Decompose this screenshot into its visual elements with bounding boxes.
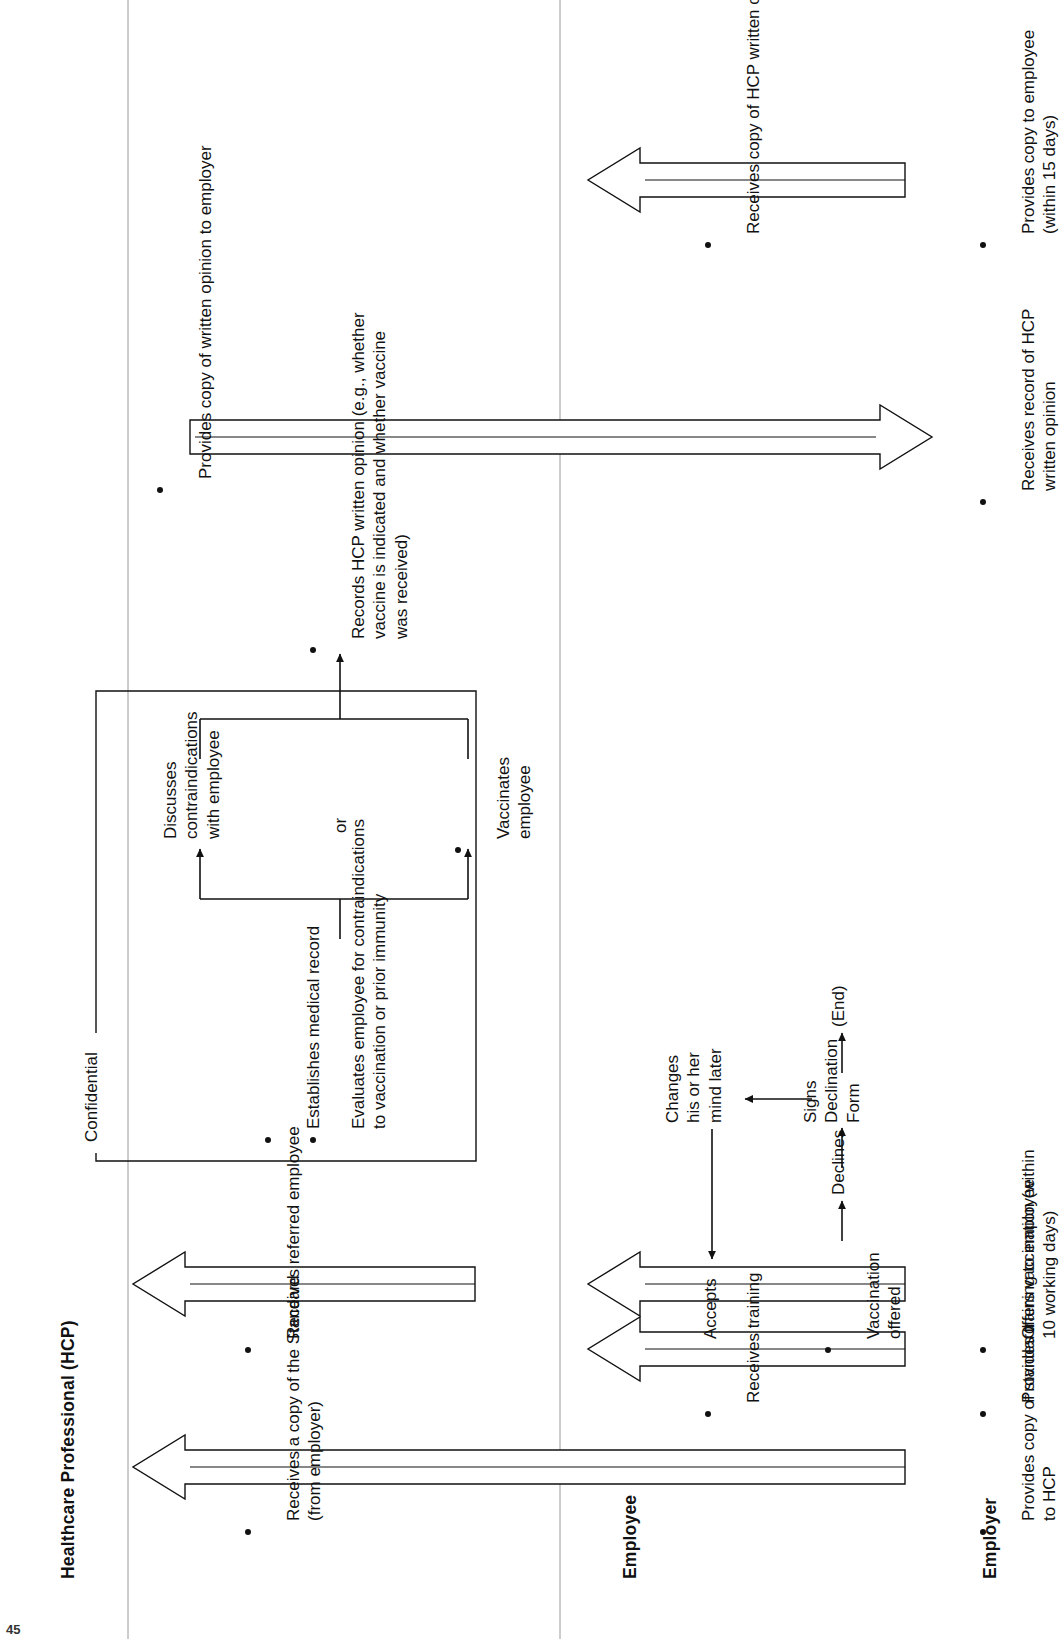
step-hcp-discusses-contraindications: Discusses contraindications with employe… <box>160 689 224 839</box>
bullet-dot <box>825 1347 831 1353</box>
page-number: 45 <box>6 1622 20 1637</box>
hollow-arrow-opinion-to-employer <box>190 405 932 469</box>
bullet-dot <box>157 487 163 493</box>
step-employee-signs-declination-form: Signs Declination Form <box>800 1023 864 1123</box>
bullet-dot <box>980 1347 986 1353</box>
bullet-dot <box>455 847 461 853</box>
lane-title-employee: Employee <box>620 1495 641 1579</box>
step-employee-end: (End) <box>828 947 849 1027</box>
bullet-dot <box>980 242 986 248</box>
step-employee-changes-mind: Changes his or her mind later <box>662 1013 726 1123</box>
step-hcp-provides-copy-of-opinion: Provides copy of written opinion to empl… <box>152 9 216 479</box>
bullet-dot <box>980 499 986 505</box>
step-employer-provides-copy-to-employee: Provides copy to employee (within 15 day… <box>975 0 1061 234</box>
flowchart-canvas: Employer Employee Healthcare Professiona… <box>0 0 1063 1639</box>
step-employee-accepts: Accepts <box>700 1229 721 1339</box>
bullet-dot <box>310 1137 316 1143</box>
bullet-dot <box>310 647 316 653</box>
bullet-dot <box>705 1411 711 1417</box>
step-employee-receives-copy-of-opinion: Receives copy of HCP written opinion <box>700 0 764 234</box>
lane-title-hcp: Healthcare Professional (HCP) <box>58 1320 79 1579</box>
step-employer-offers-vaccination: Offers vaccination (within 10 working da… <box>975 1089 1061 1339</box>
step-employer-receives-record: Receives record of HCP written opinion <box>975 251 1061 491</box>
step-hcp-or-connector: or <box>330 793 351 833</box>
bullet-dot <box>980 1529 986 1535</box>
step-hcp-evaluates-employee: Evaluates employee for contraindications… <box>305 709 391 1129</box>
bullet-dot <box>245 1347 251 1353</box>
step-hcp-records-written-opinion: Records HCP written opinion (e.g., wheth… <box>305 209 412 639</box>
bullet-dot <box>980 1411 986 1417</box>
bullet-dot <box>265 1137 271 1143</box>
confidential-group-label: Confidential <box>82 1047 102 1147</box>
bullet-dot <box>705 242 711 248</box>
step-employee-vaccination-offered: Vaccination offered <box>820 1229 906 1339</box>
step-hcp-vaccinates-employee: Vaccinates employee <box>450 719 536 839</box>
bullet-dot <box>245 1529 251 1535</box>
